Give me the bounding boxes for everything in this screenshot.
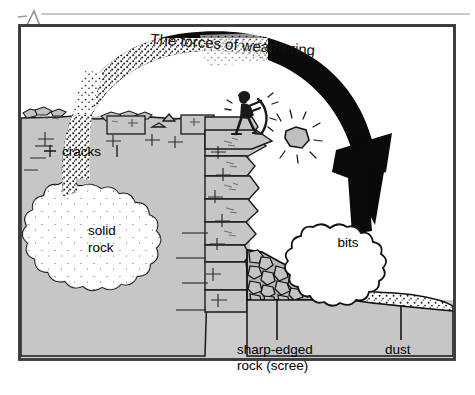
solid-rock-label-line1: solid — [88, 223, 116, 238]
solid-rock-label-line2: rock — [88, 240, 114, 255]
page-root: solid rock — [0, 0, 475, 395]
cracks-label: cracks — [62, 144, 101, 159]
diagram-stage: solid rock — [0, 0, 475, 395]
scree-label-line1: sharp-edged — [237, 342, 313, 357]
weathering-diagram: solid rock — [0, 0, 475, 395]
bits-label: bits — [337, 235, 358, 250]
dust-label: dust — [385, 342, 411, 357]
